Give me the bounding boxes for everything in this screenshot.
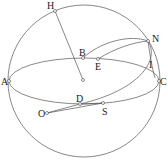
tilted-circle-arc-n-d — [80, 41, 151, 104]
arc-b-n — [83, 38, 148, 58]
label-e: E — [95, 61, 101, 72]
label-c: C — [160, 76, 167, 87]
point-o — [46, 112, 49, 115]
point-n — [147, 40, 150, 43]
label-o: O — [38, 108, 45, 119]
diagram-canvas: H B E N I A C D S O — [0, 0, 168, 161]
label-s: S — [102, 106, 108, 117]
segment-o-d — [47, 104, 80, 113]
point-center — [82, 79, 85, 82]
label-i: I — [149, 59, 152, 70]
segment-o-s — [47, 103, 103, 113]
label-b: B — [79, 47, 86, 58]
label-a: A — [1, 76, 9, 87]
point-s — [102, 102, 105, 105]
label-h: H — [47, 0, 54, 11]
label-n: N — [152, 33, 159, 44]
radius-h-center — [55, 11, 83, 80]
label-d: D — [76, 93, 83, 104]
sphere-diagram: H B E N I A C D S O — [0, 0, 168, 161]
